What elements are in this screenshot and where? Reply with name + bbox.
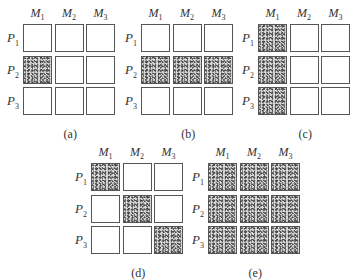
column-label-base: M xyxy=(130,145,140,159)
column-label-subscript: 3 xyxy=(289,152,293,161)
column-label-m3: M3 xyxy=(86,6,115,22)
column-label-subscript: 3 xyxy=(172,152,176,161)
cell-p3-m3-empty xyxy=(86,87,115,115)
panel-caption: (c) xyxy=(285,127,325,142)
cell-p3-m1-filled xyxy=(258,87,287,115)
cell-p3-m3-empty xyxy=(204,87,233,115)
column-label-base: M xyxy=(329,6,339,20)
cell-p2-m2-empty xyxy=(290,56,319,84)
cell-p1-m1-filled xyxy=(208,163,237,191)
cell-p3-m3-empty xyxy=(321,87,350,115)
row-label-p3: P3 xyxy=(117,93,137,111)
column-label-m1: M1 xyxy=(23,6,52,22)
row-label-p3: P3 xyxy=(0,93,19,111)
row-label-base: P xyxy=(7,62,15,77)
cell-p1-m1-filled xyxy=(258,24,287,52)
column-label-m2: M2 xyxy=(123,145,152,161)
column-label-m1: M1 xyxy=(141,6,170,22)
column-label-subscript: 3 xyxy=(339,13,343,22)
column-label-base: M xyxy=(99,145,109,159)
row-label-base: P xyxy=(75,169,83,184)
column-label-base: M xyxy=(94,6,104,20)
row-label-base: P xyxy=(242,93,250,108)
column-label-subscript: 1 xyxy=(41,13,45,22)
row-label-subscript: 3 xyxy=(83,241,87,250)
cell-p2-m3-empty xyxy=(321,56,350,84)
column-label-subscript: 1 xyxy=(276,13,280,22)
row-label-subscript: 2 xyxy=(250,70,254,79)
column-label-m1: M1 xyxy=(208,145,237,161)
cell-p1-m1-filled xyxy=(91,163,120,191)
column-label-subscript: 3 xyxy=(222,13,226,22)
column-label-subscript: 1 xyxy=(226,152,230,161)
row-label-base: P xyxy=(75,232,83,247)
column-label-subscript: 1 xyxy=(109,152,113,161)
cell-p1-m3-filled xyxy=(271,163,300,191)
panel-caption: (d) xyxy=(118,266,158,280)
column-label-m3: M3 xyxy=(154,145,183,161)
row-label-p3: P3 xyxy=(67,232,87,250)
row-label-base: P xyxy=(242,62,250,77)
cell-p3-m3-filled xyxy=(154,226,183,254)
column-label-m2: M2 xyxy=(240,145,269,161)
cell-p2-m1-filled xyxy=(208,195,237,223)
column-label-m1: M1 xyxy=(258,6,287,22)
cell-p1-m2-empty xyxy=(123,163,152,191)
cell-p2-m3-empty xyxy=(154,195,183,223)
column-label-base: M xyxy=(180,6,190,20)
column-label-subscript: 2 xyxy=(72,13,76,22)
row-label-p3: P3 xyxy=(234,93,254,111)
row-label-base: P xyxy=(75,201,83,216)
row-label-subscript: 1 xyxy=(15,39,19,48)
row-label-base: P xyxy=(192,201,200,216)
column-label-subscript: 2 xyxy=(190,13,194,22)
cell-p1-m2-empty xyxy=(290,24,319,52)
cell-p1-m1-empty xyxy=(23,24,52,52)
column-label-base: M xyxy=(216,145,226,159)
row-label-subscript: 1 xyxy=(250,39,254,48)
column-label-m2: M2 xyxy=(55,6,84,22)
cell-p2-m2-filled xyxy=(240,195,269,223)
cell-p1-m3-empty xyxy=(321,24,350,52)
row-label-base: P xyxy=(7,93,15,108)
row-label-subscript: 1 xyxy=(200,178,204,187)
cell-p3-m2-filled xyxy=(240,226,269,254)
cell-p3-m2-empty xyxy=(290,87,319,115)
column-label-base: M xyxy=(266,6,276,20)
column-label-base: M xyxy=(279,145,289,159)
row-label-p3: P3 xyxy=(184,232,204,250)
cell-p1-m3-empty xyxy=(86,24,115,52)
cell-p2-m3-filled xyxy=(204,56,233,84)
row-label-p1: P1 xyxy=(234,30,254,48)
cell-p3-m1-empty xyxy=(141,87,170,115)
row-label-base: P xyxy=(242,30,250,45)
row-label-base: P xyxy=(192,232,200,247)
row-label-base: P xyxy=(192,169,200,184)
row-label-subscript: 2 xyxy=(200,209,204,218)
row-label-p2: P2 xyxy=(117,62,137,80)
cell-p1-m3-empty xyxy=(154,163,183,191)
column-label-m2: M2 xyxy=(290,6,319,22)
row-label-p1: P1 xyxy=(67,169,87,187)
column-label-base: M xyxy=(162,145,172,159)
row-label-base: P xyxy=(125,30,133,45)
column-label-subscript: 1 xyxy=(159,13,163,22)
cell-p1-m2-empty xyxy=(55,24,84,52)
panel-caption: (e) xyxy=(235,266,275,280)
row-label-p2: P2 xyxy=(0,62,19,80)
cell-p1-m3-empty xyxy=(204,24,233,52)
column-label-m3: M3 xyxy=(321,6,350,22)
cell-p3-m1-empty xyxy=(23,87,52,115)
cell-p2-m1-filled xyxy=(23,56,52,84)
row-label-subscript: 1 xyxy=(83,178,87,187)
cell-p3-m1-filled xyxy=(208,226,237,254)
row-label-base: P xyxy=(125,93,133,108)
cell-p2-m2-empty xyxy=(55,56,84,84)
cell-p2-m1-filled xyxy=(258,56,287,84)
row-label-subscript: 3 xyxy=(15,102,19,111)
column-label-base: M xyxy=(212,6,222,20)
cell-p3-m2-empty xyxy=(55,87,84,115)
row-label-subscript: 2 xyxy=(15,70,19,79)
cell-p2-m1-filled xyxy=(141,56,170,84)
row-label-subscript: 3 xyxy=(250,102,254,111)
